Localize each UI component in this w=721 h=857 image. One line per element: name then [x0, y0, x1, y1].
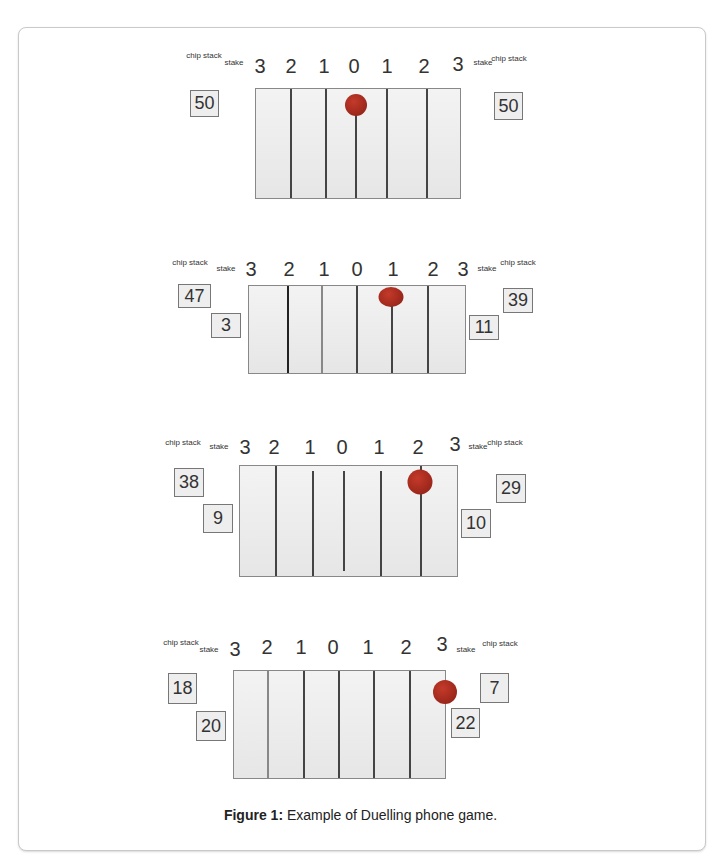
right-chip-stack-label: chip stack [482, 639, 518, 648]
scale-tick: 1 [304, 436, 315, 459]
scale-tick: 0 [327, 636, 338, 659]
scale-tick: 2 [400, 636, 411, 659]
scale-tick: 2 [261, 636, 272, 659]
right-chip-stack-label: chip stack [491, 54, 527, 63]
scale-tick: 0 [336, 436, 347, 459]
left-stake-box: 20 [196, 711, 226, 741]
left-chip-stack-label: chip stack [163, 638, 199, 647]
left-stake-label: stake [199, 645, 218, 654]
scale-tick: 2 [268, 436, 279, 459]
ball-marker [408, 470, 433, 495]
right-chip-stack-box: 39 [503, 288, 533, 313]
scale-tick: 2 [427, 258, 438, 281]
left-stake-label: stake [224, 58, 243, 67]
ball-marker [433, 680, 457, 704]
scale-tick: 1 [318, 55, 329, 78]
scale-tick: 0 [348, 55, 359, 78]
right-chip-stack-box: 29 [496, 474, 526, 503]
scale-tick: 3 [436, 633, 447, 656]
scale-tick: 2 [418, 55, 429, 78]
scale-tick: 3 [245, 258, 256, 281]
right-chip-stack-box: 7 [480, 673, 509, 703]
scale-tick: 1 [318, 258, 329, 281]
right-stake-label: stake [468, 442, 487, 451]
left-stake-label: stake [216, 264, 235, 273]
game-board [233, 670, 446, 779]
right-stake-box: 22 [451, 708, 480, 738]
scale-tick: 2 [285, 55, 296, 78]
right-stake-box: 11 [469, 315, 499, 340]
caption-text: Example of Duelling phone game. [283, 807, 497, 823]
right-stake-box: 10 [461, 509, 491, 538]
left-chip-stack-label: chip stack [172, 258, 208, 267]
right-stake-label: stake [456, 645, 475, 654]
right-chip-stack-box: 50 [494, 92, 523, 120]
ball-marker [379, 287, 404, 307]
scale-tick: 3 [239, 436, 250, 459]
scale-tick: 1 [362, 636, 373, 659]
left-stake-box: 9 [203, 504, 233, 533]
ball-marker [345, 94, 367, 116]
scale-tick: 1 [295, 636, 306, 659]
scale-tick: 0 [351, 258, 362, 281]
left-chip-stack-box: 47 [178, 284, 211, 308]
scale-tick: 3 [254, 55, 265, 78]
left-chip-stack-label: chip stack [186, 51, 222, 60]
scale-tick: 3 [449, 433, 460, 456]
scale-tick: 3 [452, 53, 463, 76]
scale-tick: 1 [373, 436, 384, 459]
left-chip-stack-label: chip stack [165, 438, 201, 447]
right-stake-label: stake [477, 264, 496, 273]
scale-tick: 3 [457, 258, 468, 281]
scale-tick: 1 [381, 55, 392, 78]
figure-caption: Figure 1: Example of Duelling phone game… [0, 807, 721, 823]
scale-tick: 3 [229, 638, 240, 661]
scale-tick: 2 [412, 436, 423, 459]
left-chip-stack-box: 50 [190, 90, 219, 117]
right-stake-label: stake [473, 58, 492, 67]
game-board [248, 285, 466, 374]
left-chip-stack-box: 18 [168, 673, 197, 704]
scale-tick: 1 [387, 258, 398, 281]
left-chip-stack-box: 38 [174, 468, 204, 497]
right-chip-stack-label: chip stack [487, 438, 523, 447]
right-chip-stack-label: chip stack [500, 258, 536, 267]
caption-label: Figure 1: [224, 807, 283, 823]
left-stake-label: stake [209, 442, 228, 451]
scale-tick: 2 [283, 258, 294, 281]
left-stake-box: 3 [211, 313, 241, 338]
